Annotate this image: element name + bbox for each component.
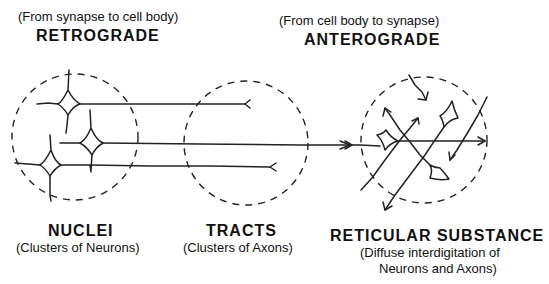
nuclei-description: (Clusters of Neurons) (16, 240, 140, 255)
tracts-title: TRACTS (206, 222, 277, 240)
nuclei-title: NUCLEI (48, 222, 114, 240)
reticular-description-line1: (Diffuse interdigitation of (360, 245, 500, 260)
nuclei-neurons (15, 70, 380, 201)
reticular-description-line2: Neurons and Axons) (379, 261, 497, 276)
tracts-circle (184, 81, 308, 205)
reticular-title: RETICULAR SUBSTANCE (330, 227, 544, 245)
nuclei-circle (12, 74, 138, 200)
tracts-description: (Clusters of Axons) (183, 240, 293, 255)
